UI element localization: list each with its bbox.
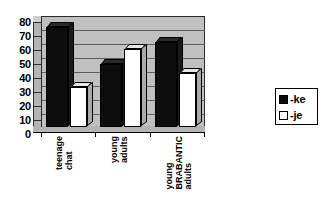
bar-front-face xyxy=(155,42,177,127)
bar-front-face xyxy=(179,73,196,127)
plot-area xyxy=(33,16,205,133)
y-axis-line xyxy=(41,16,42,127)
y-tick-label: 60 xyxy=(19,45,31,55)
bar-ke-young-brabantic-adults xyxy=(155,42,177,127)
y-tick-label: 0 xyxy=(25,129,31,139)
bar-chart-figure: 80 70 60 50 40 30 20 10 0 xyxy=(0,0,328,219)
bar-front-face xyxy=(124,49,141,127)
legend-item-ke: -ke xyxy=(279,91,317,107)
bar-front-face xyxy=(46,27,68,127)
y-axis-tick-labels: 80 70 60 50 40 30 20 10 0 xyxy=(2,0,31,219)
x-category-label-young-adults: young adults xyxy=(110,136,129,163)
x-category-label-young-brabantic-adults: young BRABANTIC adults xyxy=(165,136,194,190)
bar-je-young-adults xyxy=(124,49,141,127)
y-tick-label: 50 xyxy=(19,59,31,69)
y-tick-label: 30 xyxy=(19,87,31,97)
x-axis-category-labels: teenage chat young adults young BRABANTI… xyxy=(33,136,213,219)
legend-item-label: -je xyxy=(290,110,302,121)
bar-ke-teenage-chat xyxy=(46,27,68,127)
label-line: chat xyxy=(65,136,75,170)
label-line: adults xyxy=(184,136,194,190)
y-tick-label: 40 xyxy=(19,73,31,83)
bar-ke-young-adults xyxy=(100,64,122,127)
bar-je-teenage-chat xyxy=(70,87,87,127)
y-tick-label: 70 xyxy=(19,31,31,41)
y-tick-label: 10 xyxy=(19,115,31,125)
bar-front-face xyxy=(100,64,122,127)
y-tick-label: 20 xyxy=(19,101,31,111)
bar-front-face xyxy=(70,87,87,127)
legend-swatch-icon xyxy=(279,95,288,104)
chart-legend: -ke -je xyxy=(275,88,318,125)
bar-side-face xyxy=(141,44,147,127)
bar-je-young-brabantic-adults xyxy=(179,73,196,127)
legend-item-label: -ke xyxy=(290,94,305,105)
bar-side-face xyxy=(196,68,202,127)
x-axis-line xyxy=(33,132,205,133)
label-line: adults xyxy=(120,136,130,163)
legend-item-je: -je xyxy=(279,107,317,123)
bar-side-face xyxy=(87,82,93,127)
y-tick-label: 80 xyxy=(19,17,31,27)
x-category-label-teenage-chat: teenage chat xyxy=(55,136,74,170)
legend-swatch-icon xyxy=(279,111,288,120)
